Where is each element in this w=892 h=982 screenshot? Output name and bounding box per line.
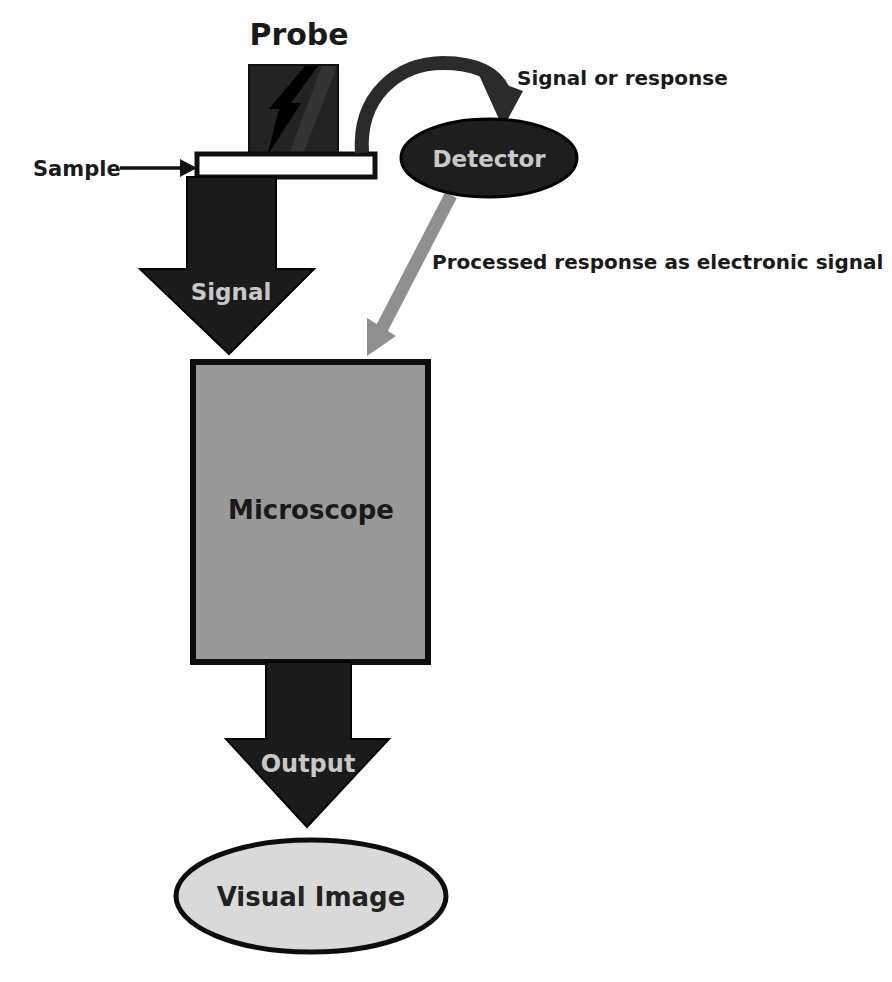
output-arrow-label: Output [261,752,356,776]
output-block-arrow [226,662,389,827]
probe-label: Probe [249,20,348,50]
diagram-canvas: Probe Sample Signal Microscope Output Vi… [0,0,892,982]
sample-slide-bar [197,154,375,177]
visual-image-label: Visual Image [217,884,406,910]
signal-arrow-label: Signal [191,281,272,304]
microscope-label: Microscope [228,497,394,523]
detector-label: Detector [432,148,545,171]
signal-block-arrow [140,177,314,354]
processed-response-label: Processed response as electronic signal [432,252,883,272]
sample-pointer-arrowhead-icon [180,159,197,177]
sample-label: Sample [33,159,121,180]
signal-or-response-label: Signal or response [517,68,728,88]
